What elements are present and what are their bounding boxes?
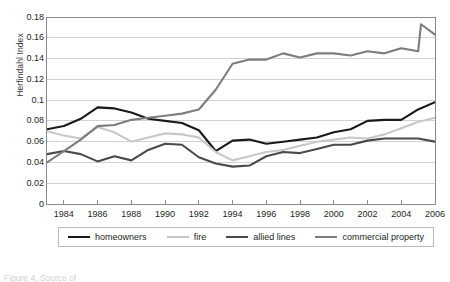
plot-area — [46, 17, 436, 205]
series-canvas — [47, 17, 435, 204]
x-axis-tick-label: 2006 — [415, 210, 450, 219]
figure-caption: Figure 4. Source of — [4, 273, 76, 282]
legend-label: homeowners — [95, 232, 147, 242]
legend-item[interactable]: allied lines — [226, 232, 295, 242]
legend-label: allied lines — [253, 232, 295, 242]
legend-label: fire — [194, 232, 207, 242]
legend-color-swatch — [68, 236, 90, 238]
legend-color-swatch — [315, 236, 337, 238]
chart-legend: homeownersfireallied linescommercial pro… — [58, 227, 434, 247]
legend-color-swatch — [167, 236, 189, 238]
legend-item[interactable]: fire — [167, 232, 207, 242]
legend-item[interactable]: commercial property — [315, 232, 424, 242]
legend-item[interactable]: homeowners — [68, 232, 147, 242]
legend-label: commercial property — [342, 232, 424, 242]
legend-color-swatch — [226, 236, 248, 238]
